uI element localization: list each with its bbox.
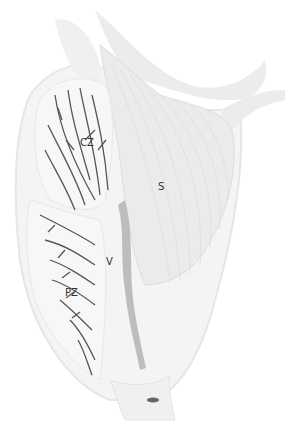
central-zone xyxy=(35,79,113,210)
urethral-opening xyxy=(147,398,159,403)
label-verumontanum: V xyxy=(106,256,113,267)
label-stroma: S xyxy=(158,181,164,192)
label-peripheral-zone: PZ xyxy=(65,287,78,298)
prostate-illustration xyxy=(0,0,287,426)
label-central-zone: CZ xyxy=(80,137,94,148)
